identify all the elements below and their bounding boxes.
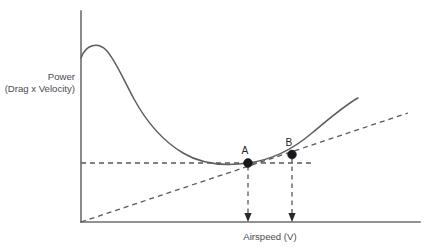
arrow-head-a-icon (244, 213, 251, 222)
data-point-b-label: B (286, 137, 293, 148)
drop-line-a-group (244, 166, 251, 222)
tangent-from-origin-line (81, 113, 408, 222)
drop-line-b-group (288, 158, 295, 222)
data-point-b-marker (288, 150, 297, 159)
arrow-head-b-icon (288, 213, 295, 222)
y-axis-title-line1: Power (48, 71, 76, 82)
x-axis-title: Airspeed (V) (243, 231, 296, 242)
y-axis-title-line2: (Drag x Velocity) (5, 83, 75, 94)
power-curve-figure: A B Power (Drag x Velocity) Airspeed (V) (0, 0, 425, 251)
data-point-a-label: A (242, 145, 249, 156)
data-point-a-marker (244, 159, 253, 168)
power-required-curve-group (81, 45, 358, 164)
power-required-curve (81, 45, 358, 164)
tangent-line-group (81, 113, 408, 222)
axes-group (81, 11, 420, 222)
chart-canvas: A B Power (Drag x Velocity) Airspeed (V) (0, 0, 425, 251)
